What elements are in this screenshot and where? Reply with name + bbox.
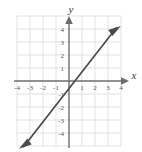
x-tick-label: -4 xyxy=(14,84,20,92)
x-tick-label: 4 xyxy=(119,84,123,92)
coordinate-plane-figure: -4 -3 -2 -1 1 2 3 4 4 3 2 1 -1 -2 -3 -4 … xyxy=(0,0,142,152)
y-tick-label: -2 xyxy=(58,104,64,112)
y-axis xyxy=(65,16,73,148)
x-tick-label: 1 xyxy=(80,84,84,92)
x-axis-title: x xyxy=(131,69,137,81)
x-tick-label: 2 xyxy=(93,84,97,92)
y-tick-label: 1 xyxy=(61,65,65,73)
y-axis-title: y xyxy=(68,3,74,15)
y-tick-label: 3 xyxy=(61,39,65,47)
x-tick-label: -3 xyxy=(27,84,33,92)
y-tick-label: -1 xyxy=(58,91,64,99)
y-tick-label: -3 xyxy=(58,117,64,125)
x-tick-label: 3 xyxy=(106,84,110,92)
y-tick-label: 4 xyxy=(61,26,65,34)
x-tick-label: -2 xyxy=(40,84,46,92)
graph-canvas: -4 -3 -2 -1 1 2 3 4 4 3 2 1 -1 -2 -3 -4 … xyxy=(0,0,142,152)
y-tick-labels: 4 3 2 1 -1 -2 -3 -4 xyxy=(58,26,64,138)
y-tick-label: -4 xyxy=(58,130,64,138)
y-tick-label: 2 xyxy=(61,52,65,60)
